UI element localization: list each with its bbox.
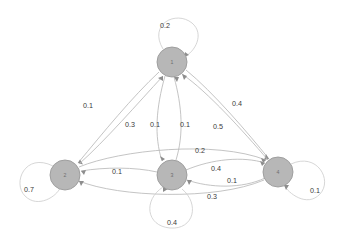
self-loop-weight-node-3: 0.4 xyxy=(167,218,177,227)
arrowhead-4-to-3 xyxy=(187,180,192,185)
arrowhead-4-to-2 xyxy=(79,181,84,186)
node-4-label: 4 xyxy=(277,169,280,175)
edge-3-to-4 xyxy=(186,159,265,170)
edge-weight-3-to-4: 0.4 xyxy=(211,164,221,173)
arrowhead-4-to-1 xyxy=(182,74,187,80)
node-4[interactable]: 4 xyxy=(263,157,293,187)
edge-weight-2-to-1: 0.3 xyxy=(125,120,135,129)
edge-4-to-3 xyxy=(187,178,265,186)
edge-weight-3-to-2: 0.1 xyxy=(112,167,122,176)
edge-weight-2-to-4: 0.2 xyxy=(195,146,205,155)
node-3[interactable]: 3 xyxy=(157,160,187,190)
node-2[interactable]: 2 xyxy=(50,160,80,190)
diagram-canvas: 1 2 3 4 0.2 0.7 0.4 0.1 0.1 0 xyxy=(0,0,345,240)
edge-1-to-3 xyxy=(157,76,165,161)
node-3-label: 3 xyxy=(171,172,174,178)
edge-1-to-2 xyxy=(78,72,159,163)
edge-weight-1-to-4: 0.4 xyxy=(232,99,242,108)
self-loop-weight-node-1: 0.2 xyxy=(160,21,170,30)
edge-3-to-1 xyxy=(174,77,181,160)
edge-weight-1-to-3: 0.1 xyxy=(150,120,160,129)
markov-chain-diagram: 1 2 3 4 0.2 0.7 0.4 0.1 0.1 0 xyxy=(0,0,345,240)
edge-weight-1-to-2: 0.1 xyxy=(83,101,93,110)
self-loop-weight-node-4: 0.1 xyxy=(310,186,320,195)
node-2-label: 2 xyxy=(64,172,67,178)
edge-weight-4-to-1: 0.5 xyxy=(213,122,223,131)
node-layer: 1 2 3 4 xyxy=(50,47,293,190)
edge-weight-4-to-2: 0.3 xyxy=(207,192,217,201)
edge-weight-3-to-1: 0.1 xyxy=(180,120,190,129)
edge-weight-4-to-3: 0.1 xyxy=(227,176,237,185)
node-1[interactable]: 1 xyxy=(157,47,187,77)
self-loop-weight-node-2: 0.7 xyxy=(24,185,34,194)
node-1-label: 1 xyxy=(171,59,174,65)
arrowhead-1-to-3 xyxy=(160,156,165,161)
